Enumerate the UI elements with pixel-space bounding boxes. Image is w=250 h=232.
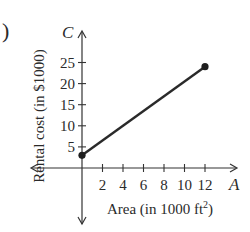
- x-tick-label: 4: [119, 177, 127, 193]
- y-tick-label: 15: [60, 97, 75, 113]
- x-tick-label: 2: [99, 177, 107, 193]
- chart-canvas: ) C A 510152025 24681012 Rental cost (in…: [0, 0, 250, 232]
- closed-endpoint-dot: [78, 152, 85, 159]
- x-tick-label: 8: [160, 177, 168, 193]
- panel-label: ): [2, 18, 9, 43]
- y-tick-label: 5: [68, 139, 76, 155]
- x-axis-title: Area (in 1000 ft2): [107, 199, 213, 218]
- x-axis: [31, 164, 237, 172]
- y-tick-label: 10: [60, 118, 75, 134]
- x-tick-label: 12: [198, 177, 213, 193]
- x-tick-label: 6: [140, 177, 148, 193]
- y-tick-label: 20: [60, 76, 75, 92]
- x-axis-variable: A: [228, 175, 240, 194]
- x-tick-label: 10: [177, 177, 192, 193]
- y-tick-label: 25: [60, 55, 75, 71]
- data-line: [82, 67, 205, 156]
- y-axis-variable: C: [62, 23, 74, 42]
- data-series: [78, 63, 208, 159]
- y-axis: [78, 31, 86, 224]
- closed-endpoint-dot: [201, 63, 208, 70]
- y-axis-title: Rental cost (in $1000): [31, 49, 48, 183]
